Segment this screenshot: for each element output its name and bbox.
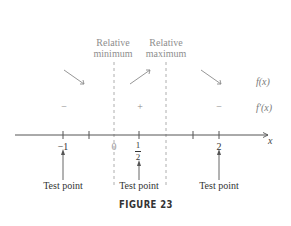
relative-maximum-line1: Relative (136, 37, 196, 48)
test-point-label-3: Test point (189, 180, 249, 191)
relative-minimum-line2: minimum (83, 48, 143, 59)
tick-label-neg-one: −1 (53, 141, 73, 152)
fprime-sign-2: + (134, 101, 146, 112)
relative-minimum-line1: Relative (83, 37, 143, 48)
tick-label-zero: 0 (104, 141, 124, 152)
relative-minimum-label: Relative minimum (83, 37, 143, 59)
fprime-row-label: f′(x) (256, 102, 272, 113)
fprime-sign-3: − (213, 101, 225, 112)
f-row-label: f(x) (256, 76, 270, 87)
relative-maximum-label: Relative maximum (136, 37, 196, 59)
x-axis-label: x (268, 135, 272, 146)
half-numerator: 1 (136, 141, 141, 150)
diagram-graphics (0, 0, 291, 226)
figure-caption: FIGURE 23 (104, 199, 189, 210)
tick-label-two: 2 (209, 141, 229, 152)
increasing-arrow (130, 70, 150, 84)
half-denominator: 2 (136, 153, 141, 162)
decreasing-arrow-2 (201, 70, 221, 84)
test-point-label-2: Test point (109, 180, 169, 191)
tick-label-half: 1 2 (135, 141, 141, 162)
relative-maximum-line2: maximum (136, 48, 196, 59)
sign-chart-figure: Relative minimum Relative maximum f(x) f… (0, 0, 291, 226)
test-point-label-1: Test point (33, 180, 93, 191)
decreasing-arrow-1 (64, 70, 84, 84)
fprime-sign-1: − (58, 101, 70, 112)
